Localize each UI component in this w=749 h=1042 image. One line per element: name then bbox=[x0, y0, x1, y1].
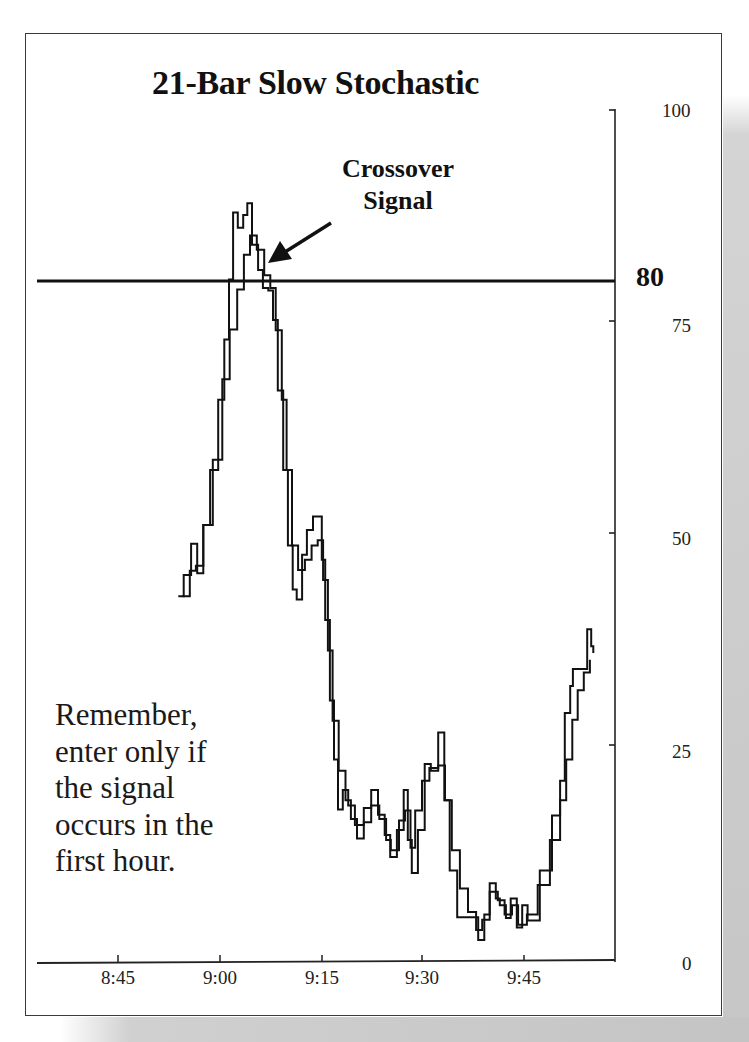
x-axis bbox=[37, 960, 615, 963]
plot-area bbox=[0, 0, 749, 1042]
series-slow-d bbox=[182, 235, 590, 930]
arrow-icon bbox=[268, 223, 331, 263]
